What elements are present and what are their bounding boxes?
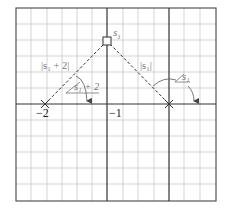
magnitude-label-right: |s₁|	[140, 60, 152, 71]
svg-text:s₁ + 2: s₁ + 2	[74, 81, 100, 92]
vector-left-dashed	[45, 44, 104, 104]
s-plane-diagram: s1 |s₁ + 2| |s₁| s₁ + 2 s₁ −2 −1	[0, 0, 227, 214]
angle-label-right: s₁	[153, 71, 194, 101]
vector-right-dashed	[110, 44, 169, 104]
svg-text:s₁: s₁	[182, 71, 190, 82]
axis-label-minus-2: −2	[36, 106, 49, 120]
test-point-square-icon	[103, 37, 111, 45]
magnitude-label-left: |s₁ + 2|	[41, 60, 69, 71]
angle-label-left: s₁ + 2	[66, 76, 100, 101]
test-point-label: s1	[113, 26, 121, 41]
axis-label-minus-1: −1	[109, 106, 122, 120]
